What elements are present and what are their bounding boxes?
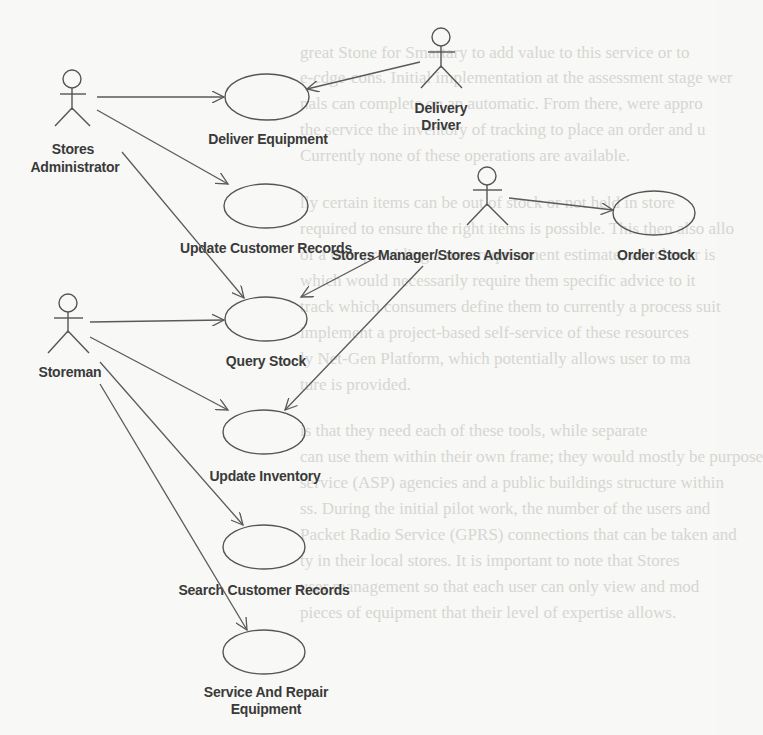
assoc-admin-query-stock xyxy=(122,152,244,298)
actor-label: Delivery xyxy=(415,100,468,116)
actor-stores-manager[interactable]: Stores Manager/Stores Advisor xyxy=(332,167,535,263)
use-case-order-stock[interactable]: Order Stock xyxy=(613,191,695,263)
associations xyxy=(90,62,613,630)
use-case-search-customer-records[interactable]: Search Customer Records xyxy=(178,525,350,598)
actor-stores-administrator[interactable]: Stores Administrator xyxy=(30,70,120,175)
stick-figure-icon xyxy=(48,294,89,353)
stick-figure-icon xyxy=(421,28,462,88)
use-case-update-customer-records[interactable]: Update Customer Records xyxy=(180,184,352,256)
use-case-label: Order Stock xyxy=(617,247,695,263)
actor-label: Stores Manager/Stores Advisor xyxy=(332,247,535,263)
stick-figure-icon xyxy=(55,70,90,126)
use-case-label: Deliver Equipment xyxy=(208,131,328,147)
use-case-query-stock[interactable]: Query Stock xyxy=(225,297,307,369)
actor-label: Storeman xyxy=(39,364,102,380)
actor-delivery-driver[interactable]: Delivery Driver xyxy=(415,28,468,133)
use-case-label: Search Customer Records xyxy=(178,582,350,598)
assoc-manager-order xyxy=(509,198,613,210)
actor-label: Stores xyxy=(52,141,95,157)
use-case-deliver-equipment[interactable]: Deliver Equipment xyxy=(208,74,328,147)
use-case-label: Update Inventory xyxy=(209,468,321,484)
use-case-label: Equipment xyxy=(231,701,302,717)
use-case-label: Update Customer Records xyxy=(180,240,352,256)
assoc-driver-deliver xyxy=(307,62,420,89)
assoc-storeman-query xyxy=(90,320,224,322)
assoc-storeman-search-customer xyxy=(100,362,243,525)
actor-label: Administrator xyxy=(30,159,120,175)
actor-storeman[interactable]: Storeman xyxy=(39,294,102,380)
use-case-service-and-repair-equipment[interactable]: Service And Repair Equipment xyxy=(204,630,329,717)
stick-figure-icon xyxy=(467,167,508,225)
use-case-label: Service And Repair xyxy=(204,684,329,700)
actor-label: Driver xyxy=(421,117,461,133)
use-case-update-inventory[interactable]: Update Inventory xyxy=(209,410,321,484)
assoc-manager-update-inventory xyxy=(285,266,423,410)
use-case-label: Query Stock xyxy=(226,353,307,369)
assoc-storeman-service-repair xyxy=(100,384,247,630)
